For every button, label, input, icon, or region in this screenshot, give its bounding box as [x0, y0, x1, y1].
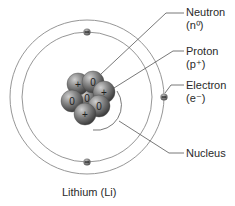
proton-leader-line — [114, 51, 184, 88]
nucleus-label: Nucleus — [186, 147, 226, 160]
electron-label-name: Electron — [186, 79, 226, 92]
electron-label-symbol: (e⁻) — [186, 92, 226, 105]
proton-label-symbol: (p⁺) — [186, 58, 218, 71]
proton-particle: + — [74, 103, 96, 125]
electron-leader-line — [165, 85, 184, 93]
neutron-label: Neutron (n⁰) — [186, 6, 225, 32]
neutron-charge-symbol: 0 — [69, 96, 75, 107]
proton-charge-symbol: + — [75, 79, 81, 90]
electron — [160, 93, 167, 100]
proton-charge-symbol: + — [82, 109, 88, 120]
proton-label: Proton (p⁺) — [186, 45, 218, 71]
neutron-charge-symbol: 0 — [96, 101, 102, 112]
neutron-label-symbol: (n⁰) — [186, 19, 225, 32]
electron-label: Electron (e⁻) — [186, 79, 226, 105]
proton-label-name: Proton — [186, 45, 218, 58]
diagram-caption: Lithium (Li) — [62, 186, 116, 198]
nucleus: 0+00+0+ — [61, 71, 115, 125]
electron — [83, 158, 90, 165]
electron — [83, 28, 90, 35]
nucleus-label-name: Nucleus — [186, 147, 226, 160]
nucleus-leader-line — [119, 121, 184, 153]
neutron-label-name: Neutron — [186, 6, 225, 19]
